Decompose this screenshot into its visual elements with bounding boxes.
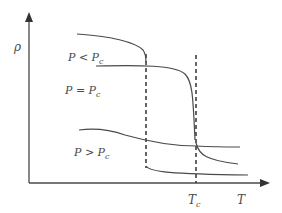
label-p-equal-pc: P = Pc — [64, 84, 101, 99]
tc-label: Tc — [188, 193, 201, 209]
label-p-less-pc: P < Pc — [67, 51, 104, 66]
label-p-greater-pc: P > Pc — [73, 146, 110, 161]
curve-p-less-pc-vapor — [146, 166, 248, 175]
y-axis-label: ρ — [13, 40, 21, 54]
x-axis-label: T — [237, 193, 246, 207]
phase-diagram: ρ T Tc P < Pc P = Pc P > Pc — [0, 0, 282, 213]
y-axis-arrow-icon — [25, 12, 33, 22]
x-axis-arrow-icon — [260, 179, 270, 187]
curve-p-greater-pc — [79, 129, 240, 147]
